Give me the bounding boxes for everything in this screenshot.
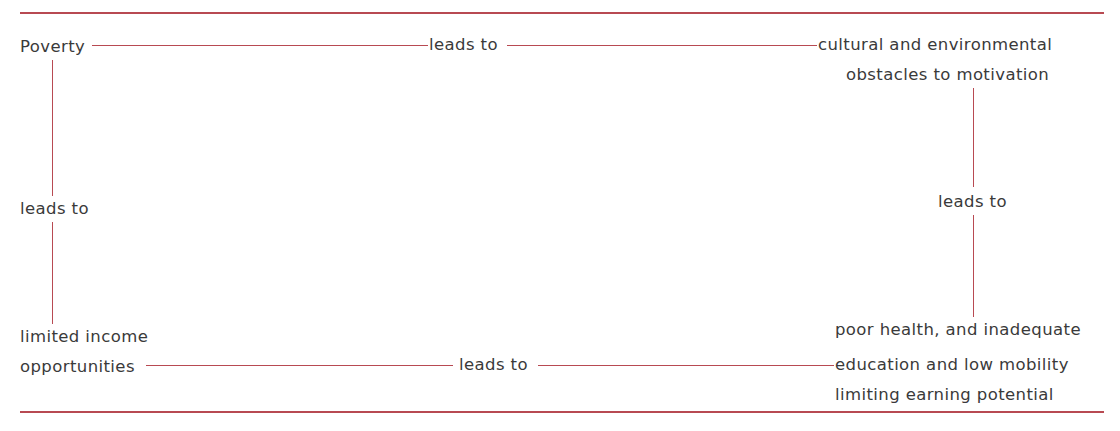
node-limited-income-line2: opportunities <box>20 354 135 380</box>
bottom-connector-left <box>146 365 453 366</box>
node-poor-health-line3: limiting earning potential <box>835 382 1054 408</box>
edge-label-top: leads to <box>429 32 498 58</box>
node-poor-health-line2: education and low mobility <box>835 352 1069 378</box>
left-connector-bottom <box>52 220 53 324</box>
edge-label-right: leads to <box>938 189 1007 215</box>
top-rule <box>20 12 1104 14</box>
node-poverty: Poverty <box>20 34 85 60</box>
node-cultural-obstacles-line1: cultural and environmental <box>818 32 1052 58</box>
right-connector-top <box>973 87 974 187</box>
edge-label-left: leads to <box>20 196 89 222</box>
node-poor-health-line1: poor health, and inadequate <box>835 317 1081 343</box>
bottom-rule <box>20 411 1104 413</box>
edge-label-bottom: leads to <box>459 352 528 378</box>
right-connector-bottom <box>973 213 974 317</box>
top-connector-left <box>92 45 428 46</box>
node-cultural-obstacles-line2: obstacles to motivation <box>846 62 1049 88</box>
bottom-connector-right <box>538 365 834 366</box>
node-limited-income-line1: limited income <box>20 324 148 350</box>
left-connector-top <box>52 60 53 197</box>
top-connector-right <box>507 45 817 46</box>
